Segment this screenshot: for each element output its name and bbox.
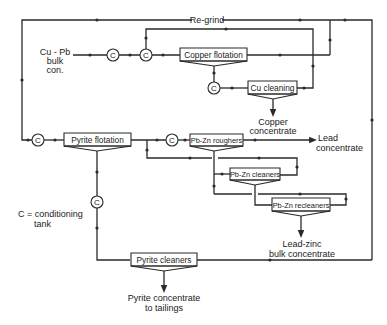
pbzn-roughers-unit: Pb-Zn roughers — [190, 134, 243, 151]
copper-flotation-unit: Copper flotation — [180, 48, 247, 66]
conditioner-tank-2: C — [140, 49, 152, 61]
pbzn-cleaners-unit: Pb-Zn cleaners — [230, 168, 280, 185]
svg-text:Cu cleaning: Cu cleaning — [251, 83, 295, 93]
svg-text:Pyrite concentrate: Pyrite concentrate — [128, 293, 201, 303]
svg-text:Copper flotation: Copper flotation — [184, 50, 243, 60]
svg-text:to tailings: to tailings — [145, 303, 184, 313]
svg-text:C: C — [211, 84, 217, 93]
svg-text:Lead-zinc: Lead-zinc — [282, 239, 322, 249]
svg-text:Pb-Zn cleaners: Pb-Zn cleaners — [230, 170, 280, 179]
pbzn-recleaners-unit: Pb-Zn recleaners — [272, 198, 330, 216]
svg-text:C: C — [110, 51, 116, 60]
pyrite-concentrate-label: Pyrite concentrate to tailings — [128, 293, 201, 313]
svg-text:Pyrite cleaners: Pyrite cleaners — [137, 255, 192, 265]
svg-text:concentrate: concentrate — [249, 126, 296, 136]
pyrite-cleaners-unit: Pyrite cleaners — [131, 253, 197, 271]
leadzinc-bulk-label: Lead-zinc bulk concentrate — [269, 239, 335, 259]
regrind-label: Re-grind — [190, 15, 225, 25]
svg-text:Pb-Zn recleaners: Pb-Zn recleaners — [273, 201, 330, 210]
svg-text:C: C — [94, 198, 100, 207]
svg-text:Pyrite flotation: Pyrite flotation — [71, 135, 124, 145]
conditioner-tank-1: C — [107, 49, 119, 61]
cu-cleaning-unit: Cu cleaning — [248, 81, 297, 99]
pyrite-flotation-unit: Pyrite flotation — [64, 133, 131, 151]
svg-text:Lead: Lead — [318, 133, 338, 143]
svg-text:C: C — [169, 136, 175, 145]
svg-text:concentrate: concentrate — [316, 143, 363, 153]
svg-text:C: C — [35, 136, 41, 145]
svg-text:C: C — [143, 51, 149, 60]
conditioner-tank-5: C — [166, 134, 178, 146]
svg-text:C = conditioning: C = conditioning — [18, 209, 83, 219]
conditioner-tank-3: C — [208, 82, 220, 94]
svg-text:Pb-Zn roughers: Pb-Zn roughers — [191, 136, 243, 145]
conditioner-tank-4: C — [32, 134, 44, 146]
svg-text:bulk concentrate: bulk concentrate — [269, 249, 335, 259]
legend: C = conditioning tank — [18, 209, 83, 229]
lead-concentrate-label: Lead concentrate — [316, 133, 363, 153]
copper-concentrate-label: Copper concentrate — [249, 117, 296, 136]
svg-text:tank: tank — [34, 219, 52, 229]
feed-label: Cu - Pb bulk con. — [40, 47, 71, 75]
flowsheet-diagram: Re-grind Cu - Pb bulk con. C C Copper fl… — [0, 0, 387, 325]
svg-text:con.: con. — [46, 65, 63, 75]
conditioner-tank-6: C — [91, 196, 103, 208]
